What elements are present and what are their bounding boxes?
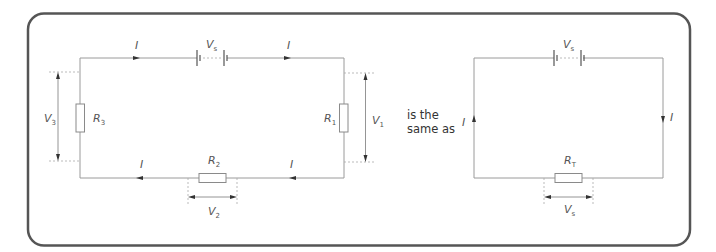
resistor-r1 — [340, 104, 349, 132]
source-voltage-label: Vs — [563, 38, 575, 53]
voltage-v2-label: V2 — [208, 205, 220, 220]
battery-symbol — [197, 50, 227, 66]
equivalence-text-line2: same as — [407, 122, 455, 136]
voltage-vs-label: Vs — [564, 203, 576, 218]
current-label: I — [135, 39, 138, 52]
resistor-r1-label: R1 — [324, 112, 336, 127]
current-label: I — [670, 111, 673, 124]
battery-symbol — [554, 50, 584, 66]
current-arrow-left-icon — [289, 176, 296, 180]
resistor-r3 — [76, 104, 85, 132]
current-arrow-left-icon — [136, 176, 143, 180]
resistor-r3-label: R3 — [93, 112, 105, 127]
source-voltage-label: Vs — [206, 38, 218, 53]
voltage-v3-dimension — [49, 72, 80, 161]
current-label: I — [462, 116, 465, 129]
right-circuit: Vs I I RT Vs — [462, 38, 673, 218]
current-label: I — [290, 158, 293, 171]
frame-border — [28, 14, 690, 246]
voltage-v1-dimension — [344, 73, 375, 162]
current-arrow-right-icon — [133, 56, 140, 60]
resistor-rt — [555, 174, 582, 183]
voltage-v3-label: V3 — [44, 112, 56, 127]
resistor-r2-label: R2 — [208, 154, 220, 169]
current-arrow-up-icon — [472, 115, 476, 122]
resistor-rt-label: RT — [564, 154, 577, 169]
diagram-canvas: Vs I I I I R3 V3 R1 — [0, 0, 716, 252]
current-label: I — [140, 158, 143, 171]
left-circuit: Vs I I I I R3 V3 R1 — [44, 38, 384, 220]
equivalence-text-line1: is the — [407, 108, 439, 122]
resistor-r2 — [199, 174, 226, 183]
current-arrow-down-icon — [661, 116, 665, 123]
current-arrow-right-icon — [284, 56, 291, 60]
current-label: I — [287, 39, 290, 52]
voltage-v1-label: V1 — [372, 114, 384, 129]
